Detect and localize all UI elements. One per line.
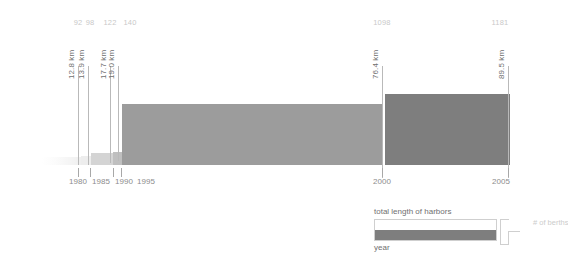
bar-1985 <box>81 156 91 165</box>
bar-1980 <box>42 157 81 165</box>
legend-title: total length of harbors <box>374 207 451 216</box>
km-label-1995: 19.0 km <box>107 50 116 79</box>
tick-1990 <box>113 168 114 177</box>
km-label-2005: 89.5 km <box>497 50 506 79</box>
leader-1985 <box>88 66 89 165</box>
legend-year-label: year <box>374 243 390 252</box>
year-label-2005: 2005 <box>481 177 521 186</box>
berth-count-2005: 1181 <box>475 18 525 27</box>
leader-1980 <box>78 66 79 165</box>
bar-2000 <box>122 104 382 165</box>
tick-1980 <box>78 168 79 177</box>
km-label-1980: 12.8 km <box>67 50 76 79</box>
tick-2000 <box>382 168 383 177</box>
tick-1985 <box>90 168 91 177</box>
leader-1990 <box>110 66 111 163</box>
leader-2005 <box>508 66 509 178</box>
berth-count-2000: 1098 <box>357 18 407 27</box>
bar-2005 <box>385 94 510 165</box>
legend: total length of harbors year # of berths <box>374 207 524 259</box>
tick-2005 <box>508 168 509 177</box>
year-label-1995: 1995 <box>126 177 166 186</box>
leader-2000 <box>382 66 383 178</box>
km-label-1985: 13.9 km <box>77 50 86 79</box>
legend-swatch <box>375 230 496 240</box>
year-label-2000: 2000 <box>362 177 402 186</box>
berth-count-1995: 140 <box>105 18 155 27</box>
tick-1995 <box>121 168 122 177</box>
km-label-2000: 76.4 km <box>371 50 380 79</box>
leader-1995 <box>118 66 119 161</box>
legend-berths-label: # of berths <box>533 218 568 227</box>
berths-bracket-icon: # of berths <box>500 219 526 245</box>
